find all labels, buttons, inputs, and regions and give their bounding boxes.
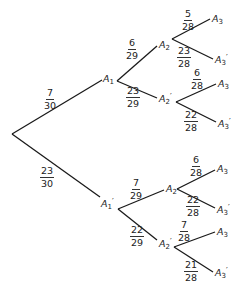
node-a1pa2-a3: A3: [217, 163, 228, 176]
node-a1p-a2-prime: A2′: [159, 238, 172, 251]
node-a1pa2p-a3-prime: A3′: [215, 267, 228, 280]
node-a1: A1: [103, 73, 114, 86]
prob-a1pa2p-a3-prime: 21 28: [184, 260, 198, 283]
node-a1p-a2: A2: [166, 183, 177, 196]
node-a1a2p-a3-prime: A3′: [218, 118, 231, 131]
prob-a1p-a2: 7 29: [130, 178, 142, 201]
node-a1a2-a3: A3: [212, 13, 223, 26]
node-a1-a2: A2: [159, 39, 170, 52]
prob-a1p-a2-prime: 22 29: [130, 225, 144, 248]
prob-a1pa2p-a3: 7 28: [178, 220, 190, 243]
edge-root-a1: [12, 80, 102, 134]
prob-a1a2p-a3-prime: 22 28: [184, 110, 198, 133]
prob-a1a2-a3: 5 28: [182, 9, 194, 32]
prob-a1pa2-a3: 6 28: [190, 155, 202, 178]
tree-edges: [0, 0, 238, 291]
prob-a1pa2-a3-prime: 22 28: [186, 195, 200, 218]
node-a1-a2-prime: A2′: [159, 93, 172, 106]
prob-a1-a2: 6 29: [126, 38, 138, 61]
node-a1-prime: A1′: [101, 198, 114, 211]
prob-a1-prime: 23 30: [40, 166, 54, 189]
edge-root-a1-prime: [12, 134, 100, 197]
node-a1pa2-a3-prime: A3′: [217, 204, 230, 217]
node-a1a2-a3-prime: A3′: [215, 54, 228, 67]
prob-a1a2p-a3: 6 28: [191, 68, 203, 91]
prob-a1a2-a3-prime: 23 28: [177, 46, 191, 69]
node-a1a2p-a3: A3: [218, 78, 229, 91]
node-a1pa2p-a3: A3: [217, 226, 228, 239]
prob-a1: 7 30: [44, 88, 56, 111]
prob-a1-a2-prime: 23 29: [126, 86, 140, 109]
